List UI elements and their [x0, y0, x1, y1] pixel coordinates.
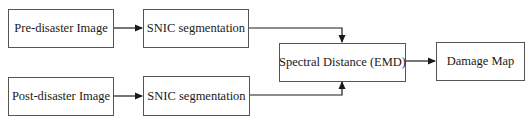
spectral-distance-emd-node: Spectral Distance (EMD): [279, 43, 406, 82]
node-label: SNIC segmentation: [147, 89, 245, 104]
post-disaster-image-node: Post-disaster Image: [8, 77, 114, 116]
pre-disaster-image-node: Pre-disaster Image: [8, 9, 114, 48]
node-label: Damage Map: [447, 54, 515, 69]
node-label: Pre-disaster Image: [14, 21, 107, 36]
arrow-snic2-to-emd: [249, 82, 342, 95]
snic-segmentation-bottom-node: SNIC segmentation: [143, 76, 250, 116]
snic-segmentation-top-node: SNIC segmentation: [143, 9, 249, 48]
arrow-snic1-to-emd: [248, 28, 342, 42]
node-label: Spectral Distance (EMD): [279, 55, 406, 70]
damage-map-node: Damage Map: [436, 42, 525, 81]
node-label: SNIC segmentation: [147, 21, 245, 36]
node-label: Post-disaster Image: [12, 89, 110, 104]
